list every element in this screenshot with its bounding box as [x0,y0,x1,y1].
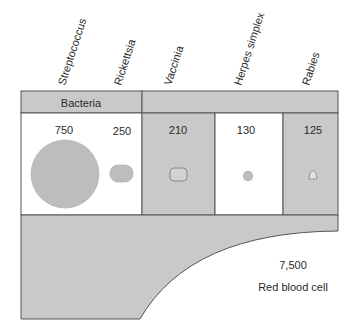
size-comparison-diagram: Streptococcus Rickettsia Vaccinia Herpes… [0,0,349,334]
shape-streptococcus [31,140,99,208]
shape-rickettsia [110,165,133,182]
size-rickettsia: 250 [113,125,131,137]
shape-herpes-simplex [243,171,253,181]
label-rabies: Rabies [299,50,321,87]
shape-vaccinia [170,168,187,181]
size-rabies: 125 [304,124,322,136]
size-herpes-simplex: 130 [237,124,255,136]
header-virus-cell [142,91,338,113]
label-herpes-simplex: Herpes simplex [231,10,266,86]
size-red-blood-cell: 7,500 [279,259,307,271]
size-vaccinia: 210 [169,124,187,136]
label-vaccinia: Vaccinia [161,43,185,86]
label-streptococcus: Streptococcus [55,16,88,86]
bacteria-group-label: Bacteria [61,97,102,109]
size-streptococcus: 750 [55,124,73,136]
label-red-blood-cell: Red blood cell [258,281,328,293]
label-rickettsia: Rickettsia [111,37,137,87]
